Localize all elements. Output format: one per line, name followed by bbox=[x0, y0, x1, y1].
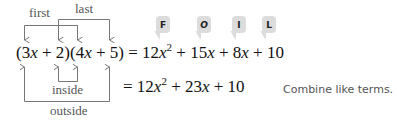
bubble-f: F bbox=[156, 16, 170, 33]
label-inside: inside bbox=[52, 82, 83, 98]
bubble-o: O bbox=[197, 16, 211, 33]
note-combine-like-terms: Combine like terms. bbox=[283, 83, 393, 96]
bubble-l: L bbox=[262, 16, 276, 33]
equation-line-1: (3x + 2)(4x + 5) = 12x2 + 15x + 8x + 10 bbox=[16, 43, 284, 63]
bubble-i: I bbox=[232, 16, 246, 33]
label-last: last bbox=[75, 1, 93, 17]
label-outside: outside bbox=[50, 103, 88, 119]
equation-line-2: = 12x2 + 23x + 10 bbox=[123, 77, 245, 97]
label-first: first bbox=[29, 5, 50, 21]
